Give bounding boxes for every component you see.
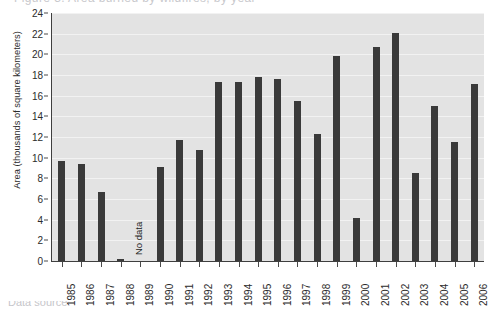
x-tick-mark (396, 262, 397, 267)
bar-2005 (451, 142, 458, 261)
y-tick-label: 6 (37, 194, 43, 205)
gridline (52, 75, 484, 76)
bar-1987 (98, 192, 105, 261)
y-tick-mark (44, 157, 48, 158)
bar-2002 (392, 33, 399, 261)
no-data-annotation: No data (133, 222, 144, 255)
x-tick-mark (81, 262, 82, 267)
x-tick-mark (297, 262, 298, 267)
bar-2000 (353, 218, 360, 261)
gridline (52, 178, 484, 179)
y-tick-mark (44, 199, 48, 200)
gridline (52, 96, 484, 97)
y-tick-mark (44, 178, 48, 179)
bar-1992 (196, 150, 203, 261)
gridline (52, 34, 484, 35)
x-tick-mark (101, 262, 102, 267)
x-tick-mark (474, 262, 475, 267)
bar-1985 (58, 161, 65, 261)
bar-1999 (333, 56, 340, 261)
x-tick-mark (160, 262, 161, 267)
y-tick-label: 12 (32, 132, 43, 143)
bar-1995 (255, 77, 262, 261)
x-tick-mark (258, 262, 259, 267)
bar-1990 (157, 167, 164, 261)
y-tick-label: 8 (37, 173, 43, 184)
x-tick-mark (180, 262, 181, 267)
bar-chart: Area (thousands of square kilometers) 02… (0, 9, 498, 301)
x-tick-mark (278, 262, 279, 267)
y-tick-mark (44, 95, 48, 96)
bar-1986 (78, 164, 85, 261)
y-tick-label: 22 (32, 28, 43, 39)
bar-1996 (274, 79, 281, 261)
bar-1997 (294, 101, 301, 261)
clipped-title-strip: Figure 3. Area burned by wildfires, by y… (0, 0, 498, 9)
x-tick-mark (239, 262, 240, 267)
x-tick-mark (356, 262, 357, 267)
bar-2006 (471, 84, 478, 261)
x-tick-mark (455, 262, 456, 267)
y-axis-line (51, 13, 52, 262)
x-tick-mark (435, 262, 436, 267)
y-tick-label: 20 (32, 49, 43, 60)
y-tick-label: 10 (32, 152, 43, 163)
x-tick-mark (376, 262, 377, 267)
bar-1998 (314, 134, 321, 261)
y-tick-label: 2 (37, 235, 43, 246)
gridline (52, 13, 484, 14)
gridline (52, 116, 484, 117)
y-tick-label: 14 (32, 111, 43, 122)
y-tick-mark (44, 13, 48, 14)
bar-1993 (215, 82, 222, 261)
x-tick-mark (62, 262, 63, 267)
gridline (52, 220, 484, 221)
y-tick-mark (44, 240, 48, 241)
gridline (52, 158, 484, 159)
y-tick-mark (44, 54, 48, 55)
x-tick-mark (317, 262, 318, 267)
bar-2001 (373, 47, 380, 261)
bar-2004 (431, 106, 438, 261)
x-tick-mark (219, 262, 220, 267)
x-tick-mark (415, 262, 416, 267)
y-tick-mark (44, 261, 48, 262)
y-tick-mark (44, 116, 48, 117)
x-tick-mark (337, 262, 338, 267)
y-tick-label: 16 (32, 90, 43, 101)
plot-area: No data (52, 13, 484, 261)
x-tick-mark (140, 262, 141, 267)
gridline (52, 137, 484, 138)
y-axis-tick-labels: 024681012141618202224 (18, 9, 48, 265)
y-tick-label: 24 (32, 8, 43, 19)
bar-1994 (235, 82, 242, 261)
y-tick-mark (44, 33, 48, 34)
clipped-caption-strip: Data source: (0, 301, 498, 310)
y-tick-label: 0 (37, 256, 43, 267)
gridline (52, 199, 484, 200)
y-tick-mark (44, 219, 48, 220)
gridline (52, 54, 484, 55)
y-tick-label: 18 (32, 70, 43, 81)
bar-1991 (176, 140, 183, 261)
bar-2003 (412, 173, 419, 261)
y-tick-mark (44, 137, 48, 138)
clipped-title-text: Figure 3. Area burned by wildfires, by y… (14, 0, 256, 5)
x-tick-mark (199, 262, 200, 267)
gridline (52, 240, 484, 241)
y-tick-label: 4 (37, 214, 43, 225)
x-tick-mark (121, 262, 122, 267)
clipped-caption-text: Data source: (8, 301, 70, 308)
y-tick-mark (44, 75, 48, 76)
